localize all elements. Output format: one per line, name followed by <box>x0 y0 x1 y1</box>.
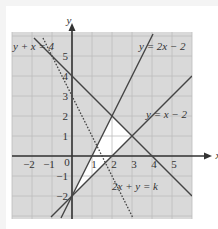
y-axis-label: y <box>66 14 72 26</box>
x-tick-label: 5 <box>171 158 177 170</box>
y-tick-label: 5 <box>63 50 69 62</box>
x-tick-label: 1 <box>91 158 97 170</box>
y-tick-label: 3 <box>63 90 69 102</box>
x-axis-arrow-icon <box>204 153 212 160</box>
line-label: 2x + y = k <box>112 180 159 192</box>
x-tick-label: 3 <box>131 158 137 170</box>
x-axis-label: x <box>215 149 218 161</box>
y-tick-label: 4 <box>63 70 69 82</box>
line-label: y + x = 4 <box>12 40 55 52</box>
x-tick-label: −2 <box>23 158 35 170</box>
shaded-region <box>12 32 192 219</box>
x-tick-label: 4 <box>151 158 157 170</box>
y-tick-label: 2 <box>63 110 69 122</box>
x-tick-label: 2 <box>111 158 117 170</box>
figure-frame: −2−1123450−2−112345xyy + x = 4y = 2x − 2… <box>0 0 218 229</box>
y-tick-label: 1 <box>63 130 69 142</box>
y-tick-label: −1 <box>56 170 68 182</box>
origin-label: 0 <box>64 156 70 168</box>
y-tick-label: −2 <box>56 190 68 202</box>
linear-programming-graph: −2−1123450−2−112345xyy + x = 4y = 2x − 2… <box>0 0 218 229</box>
line-label: y = 2x − 2 <box>138 40 186 52</box>
line-label: y = x − 2 <box>145 108 188 120</box>
x-tick-label: −1 <box>43 158 55 170</box>
